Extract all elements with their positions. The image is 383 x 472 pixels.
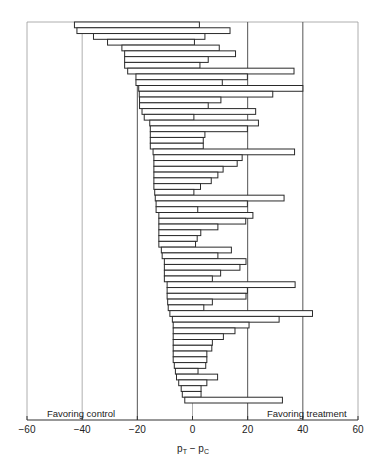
interval-bar xyxy=(142,109,256,115)
interval-bar xyxy=(159,236,197,242)
interval-bar xyxy=(167,282,295,288)
x-tick-label: −20 xyxy=(129,424,146,435)
interval-bar xyxy=(181,386,201,392)
interval-bar xyxy=(159,241,196,247)
interval-bar xyxy=(144,114,194,120)
interval-bar xyxy=(168,299,213,305)
interval-bar xyxy=(155,189,194,195)
interval-bar xyxy=(159,230,201,236)
interval-bar xyxy=(182,391,201,397)
interval-bar xyxy=(150,120,259,126)
interval-bar xyxy=(140,97,221,103)
interval-bar xyxy=(167,293,246,299)
interval-bar xyxy=(159,224,218,230)
interval-bar xyxy=(140,103,209,109)
interval-bar xyxy=(154,166,223,172)
interval-bar xyxy=(136,74,247,80)
interval-bar xyxy=(136,80,222,86)
x-tick-label: 0 xyxy=(190,424,196,435)
interval-bar xyxy=(154,172,218,178)
interval-bar xyxy=(150,137,203,143)
interval-bar xyxy=(150,143,203,149)
interval-bar xyxy=(173,334,223,340)
interval-bar xyxy=(150,126,247,132)
interval-bar xyxy=(173,345,212,351)
x-tick-label: −60 xyxy=(19,424,36,435)
interval-bars xyxy=(74,22,312,403)
interval-bar xyxy=(161,247,231,253)
interval-bar xyxy=(156,201,247,207)
interval-bar xyxy=(122,45,219,51)
interval-bar xyxy=(174,363,205,369)
x-tick-label: −40 xyxy=(74,424,91,435)
interval-bar xyxy=(74,22,199,28)
interval-bar xyxy=(139,86,303,92)
interval-bar xyxy=(125,51,236,57)
interval-bar xyxy=(175,368,198,374)
interval-bar xyxy=(172,316,279,322)
x-tick-label: 60 xyxy=(352,424,364,435)
interval-bar xyxy=(162,253,218,259)
interval-bar xyxy=(77,28,230,34)
interval-bar xyxy=(154,155,242,161)
interval-bar xyxy=(93,34,204,40)
interval-bar xyxy=(154,184,201,190)
interval-bar xyxy=(173,357,207,363)
interval-bar xyxy=(156,207,198,213)
confidence-interval-chart: −60−40−200204060 Favoring control Favori… xyxy=(0,0,383,472)
interval-bar xyxy=(154,178,211,184)
interval-bar xyxy=(154,161,237,167)
x-tick-label: 20 xyxy=(242,424,254,435)
interval-bar xyxy=(164,259,246,265)
interval-bar xyxy=(185,397,283,403)
interval-bar xyxy=(153,149,295,155)
interval-bar xyxy=(167,288,247,294)
interval-bar xyxy=(150,132,205,138)
interval-bar xyxy=(139,91,273,97)
interval-bar xyxy=(173,351,207,357)
interval-bar xyxy=(164,270,220,276)
interval-bar xyxy=(164,264,240,270)
interval-bar xyxy=(173,340,212,346)
interval-bar xyxy=(177,374,218,380)
interval-bar xyxy=(159,213,253,219)
interval-bar xyxy=(125,57,209,63)
interval-bar xyxy=(173,322,249,328)
interval-bar xyxy=(155,195,284,201)
interval-bar xyxy=(159,218,246,224)
interval-bar xyxy=(164,276,212,282)
interval-bar xyxy=(108,39,195,45)
plot-area: −60−40−200204060 Favoring control Favori… xyxy=(0,0,383,472)
favoring-treatment-label: Favoring treatment xyxy=(267,408,347,419)
x-axis-title: pT − pC xyxy=(177,443,209,455)
interval-bar xyxy=(170,311,313,317)
interval-bar xyxy=(128,68,294,74)
favoring-control-label: Favoring control xyxy=(47,408,115,419)
interval-bar xyxy=(125,62,200,68)
interval-bar xyxy=(173,328,235,334)
interval-bar xyxy=(168,305,204,311)
x-tick-label: 40 xyxy=(297,424,309,435)
interval-bar xyxy=(179,380,207,386)
